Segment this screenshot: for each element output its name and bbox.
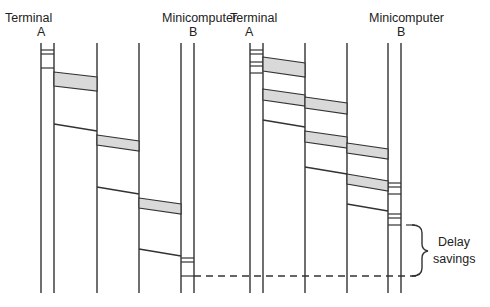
- timing-diagram: Terminal A Minicomputer B Terminal A Min…: [0, 0, 490, 307]
- right-diagram: Terminal A Minicomputer B: [230, 11, 444, 293]
- right-ack-hop2: [305, 167, 347, 174]
- left-terminal-id: A: [37, 25, 46, 39]
- delay-savings-label-line1: Delay: [438, 235, 471, 249]
- left-packet-hop1: [54, 72, 97, 91]
- left-packet-hop2: [97, 135, 139, 151]
- left-minicomputer-id: B: [189, 25, 197, 39]
- right-packet2-hop3: [347, 174, 388, 191]
- right-terminal-id: A: [245, 25, 254, 39]
- delay-savings-brace: [412, 225, 428, 276]
- right-packet1-hop3: [347, 143, 388, 159]
- right-ack-hop1: [263, 120, 305, 127]
- right-packet2-hop2: [305, 131, 347, 148]
- right-terminal-label: Terminal: [230, 11, 277, 25]
- right-packet2-hop1: [263, 89, 305, 106]
- right-packet1-hop2: [305, 97, 347, 114]
- left-packet-hop3: [139, 198, 181, 214]
- left-diagram: Terminal A Minicomputer B: [5, 11, 237, 293]
- left-terminal-label: Terminal: [5, 11, 52, 25]
- right-minicomputer-label: Minicomputer: [369, 11, 444, 25]
- delay-savings-label-line2: savings: [433, 252, 475, 266]
- left-ack-hop3: [139, 249, 181, 256]
- left-minicomputer-label: Minicomputer: [162, 11, 237, 25]
- left-ack-hop1: [54, 124, 97, 131]
- right-ack-hop3: [347, 204, 388, 211]
- right-packet1-hop1: [263, 57, 305, 77]
- left-ack-hop2: [97, 187, 139, 194]
- right-minicomputer-id: B: [397, 25, 405, 39]
